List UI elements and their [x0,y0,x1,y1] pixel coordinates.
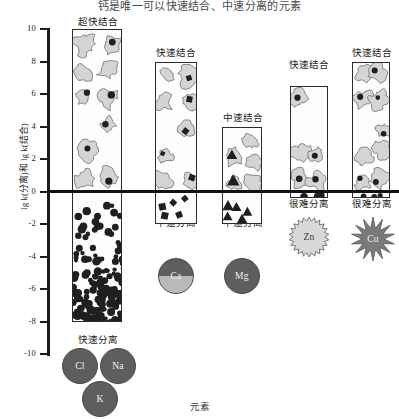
element-label: Cl [75,361,85,371]
bar-texture [291,87,328,192]
bar-binding-label: 快速结合 [134,45,218,59]
bar-binding-label: 超快结合 [55,14,141,28]
bar-texture [353,63,390,192]
y-tick-label: 10 [6,23,36,33]
y-tick-mark [40,28,48,30]
y-tick-label: -6 [6,283,36,293]
element-marker-cu[interactable]: Cu [350,216,396,262]
y-tick-mark [40,158,48,160]
bar-texture [73,30,122,192]
chart-root: 钙是唯一可以快速结合、中速分离的元素 1086420-2-4-6-8-10 lg… [0,0,399,419]
element-marker-mg[interactable]: Mg [224,258,260,294]
element-marker-ca[interactable]: Ca [158,258,194,294]
bar-texture [291,193,328,199]
y-tick-label: -4 [6,251,36,261]
bar-texture [223,128,262,192]
y-tick-mark [40,353,48,355]
y-tick-mark [40,61,48,63]
bar-positive-bar-cu[interactable] [352,62,390,192]
y-tick-label: -10 [6,348,36,358]
y-axis-title: lg k(分离)和 lg k(结合) [17,92,30,242]
bar-binding-label: 中速结合 [201,110,285,124]
x-axis-title: 元素 [0,399,399,413]
y-tick-mark [40,321,48,323]
y-tick-mark [40,288,48,290]
element-label: Mg [235,271,249,281]
y-tick-mark [40,126,48,128]
bar-binding-label: 快速结合 [267,57,351,71]
bar-texture [156,193,197,225]
chart-title: 钙是唯一可以快速结合、中速分离的元素 [0,0,399,13]
y-tick-label: -8 [6,316,36,326]
bar-negative-bar-mg[interactable] [222,192,262,225]
y-tick-label: 8 [6,56,36,66]
bar-texture [73,193,122,322]
element-label: Na [112,361,124,371]
bar-negative-bar-clnak[interactable] [72,192,122,322]
bar-separation-label: 很难分离 [330,196,399,210]
bar-positive-bar-ca[interactable] [155,62,197,192]
element-marker-zn[interactable]: Zn [288,216,330,258]
bar-positive-bar-zn[interactable] [290,86,328,192]
y-tick-mark [40,93,48,95]
bar-binding-label: 快速结合 [330,45,399,59]
element-marker-cl[interactable]: Cl [62,348,98,384]
bar-positive-bar-mg[interactable] [222,127,262,192]
y-tick-mark [40,256,48,258]
bar-texture [156,63,197,192]
bar-positive-bar-clnak[interactable] [72,29,122,192]
y-tick-mark [40,223,48,225]
bar-texture [223,193,262,225]
zero-baseline [47,190,399,193]
bar-separation-label: 快速分离 [56,332,140,346]
bar-texture [353,193,390,199]
element-label: Ca [170,271,181,281]
element-marker-na[interactable]: Na [100,348,136,384]
element-label: Cu [367,234,379,244]
element-label: Zn [303,232,314,242]
bar-negative-bar-ca[interactable] [155,192,197,225]
